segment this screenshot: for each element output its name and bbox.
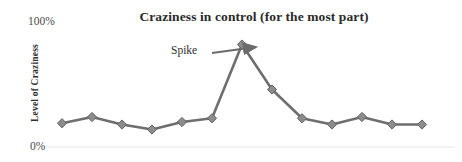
data-point-marker (87, 112, 96, 121)
data-point-marker (417, 120, 426, 129)
data-line (62, 45, 422, 130)
data-point-marker (207, 114, 216, 123)
line-chart-svg (0, 0, 462, 162)
data-point-marker (357, 112, 366, 121)
data-point-marker (147, 125, 156, 134)
data-point-marker (177, 117, 186, 126)
data-point-marker (387, 120, 396, 129)
data-point-marker (327, 120, 336, 129)
data-point-marker (57, 119, 66, 128)
annotation-arrow (212, 47, 256, 53)
data-point-marker (117, 120, 126, 129)
annotation-spike-label: Spike (171, 44, 197, 56)
chart-screenshot: Craziness in control (for the most part)… (0, 0, 462, 162)
plot-area (0, 0, 462, 162)
